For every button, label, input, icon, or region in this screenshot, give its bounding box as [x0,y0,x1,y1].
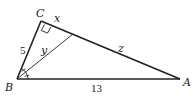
vertex-label-c: C [36,7,45,20]
side-label-5: 5 [20,44,26,56]
triangle-diagram: C x 5 y z B 13 A [0,0,196,104]
angle-tick-lower [25,75,30,76]
segment-label-x: x [54,12,61,25]
segment-label-z: z [117,42,124,55]
right-angle-mark [41,25,51,34]
vertex-label-a: A [182,76,191,89]
vertex-label-b: B [4,81,13,94]
side-label-13: 13 [91,82,103,94]
side-ca [41,21,180,79]
bisector-label-y: y [40,44,48,57]
